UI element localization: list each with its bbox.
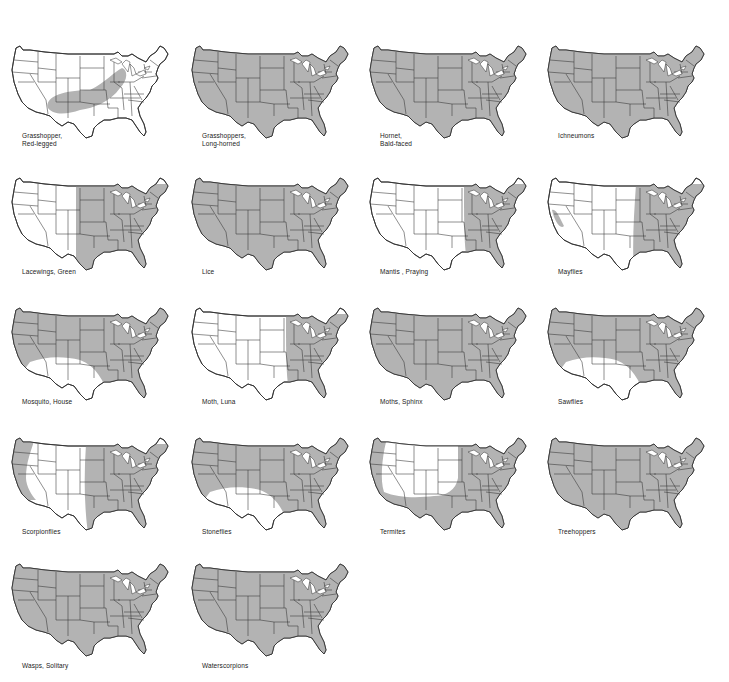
range-shading xyxy=(190,42,352,142)
range-map-panel: Hornet,Bald-faced xyxy=(362,36,538,156)
species-label: Hornet,Bald-faced xyxy=(380,132,412,148)
range-shading xyxy=(190,174,352,274)
species-label-line1: Grasshopper, xyxy=(22,132,62,140)
range-map-panel: Mosquito, House xyxy=(4,298,180,418)
us-map xyxy=(368,42,530,142)
species-label-line1: Sawflies xyxy=(558,398,583,406)
species-label-line1: Grasshoppers, xyxy=(202,132,246,140)
species-label-line1: Treehoppers xyxy=(558,528,596,536)
us-map xyxy=(368,174,530,274)
us-map xyxy=(10,174,172,274)
range-shading xyxy=(546,42,708,142)
species-label-line1: Termites xyxy=(380,528,405,536)
species-label-line1: Ichneumons xyxy=(558,132,594,140)
species-label: Ichneumons xyxy=(558,132,594,140)
us-map xyxy=(10,304,172,404)
us-map xyxy=(10,560,172,660)
range-shading xyxy=(546,434,708,534)
species-label-line1: Scorpionflies xyxy=(22,528,61,536)
range-map-panel: Stoneflies xyxy=(184,428,360,548)
range-map-panel: Lacewings, Green xyxy=(4,168,180,288)
range-shading xyxy=(286,314,352,404)
species-label: Grasshopper,Red-legged xyxy=(22,132,62,148)
species-label: Mayflies xyxy=(558,268,583,276)
range-map-panel: Moth, Luna xyxy=(184,298,360,418)
species-label: Lice xyxy=(202,268,214,276)
species-label-line1: Mosquito, House xyxy=(22,398,72,406)
species-label-line1: Moths, Sphinx xyxy=(380,398,423,406)
us-map xyxy=(546,42,708,142)
range-map-panel: Scorpionflies xyxy=(4,428,180,548)
us-map xyxy=(546,434,708,534)
range-map-panel: Wasps, Solitary xyxy=(4,554,180,674)
range-shading xyxy=(368,304,530,404)
range-shading xyxy=(464,184,530,274)
species-label-line1: Lacewings, Green xyxy=(22,268,76,276)
species-label: Mantis , Praying xyxy=(380,268,428,276)
species-label: Termites xyxy=(380,528,405,536)
range-shading xyxy=(190,560,352,660)
range-map-panel: Termites xyxy=(362,428,538,548)
range-map-panel: Sawflies xyxy=(540,298,716,418)
us-map xyxy=(10,434,172,534)
species-label: Scorpionflies xyxy=(22,528,61,536)
species-label-line1: Moth, Luna xyxy=(202,398,236,406)
us-map xyxy=(546,174,708,274)
species-label: Mosquito, House xyxy=(22,398,72,406)
range-map-panel: Lice xyxy=(184,168,360,288)
species-label-line1: Mantis , Praying xyxy=(380,268,428,276)
range-map-panel: Treehoppers xyxy=(540,428,716,548)
species-label-line1: Hornet, xyxy=(380,132,412,140)
us-map xyxy=(368,434,530,534)
range-map-panel: Grasshopper,Red-legged xyxy=(4,36,180,156)
species-label-line1: Wasps, Solitary xyxy=(22,662,68,670)
us-map xyxy=(190,174,352,274)
species-label: Moths, Sphinx xyxy=(380,398,423,406)
species-label-line1: Lice xyxy=(202,268,214,276)
range-shading xyxy=(10,560,172,660)
us-map xyxy=(190,560,352,660)
species-label: Wasps, Solitary xyxy=(22,662,68,670)
species-label-line1: Waterscorpions xyxy=(202,662,248,670)
range-shading xyxy=(368,42,530,142)
range-map-panel: Grasshoppers,Long-horned xyxy=(184,36,360,156)
species-label: Moth, Luna xyxy=(202,398,236,406)
us-map xyxy=(190,434,352,534)
range-map-panel: Ichneumons xyxy=(540,36,716,156)
us-map xyxy=(190,304,352,404)
species-label-line2: Red-legged xyxy=(22,140,62,148)
us-map xyxy=(368,304,530,404)
species-label-line1: Mayflies xyxy=(558,268,583,276)
species-label-line2: Long-horned xyxy=(202,140,246,148)
range-map-panel: Moths, Sphinx xyxy=(362,298,538,418)
species-label: Waterscorpions xyxy=(202,662,248,670)
species-label-line1: Stoneflies xyxy=(202,528,232,536)
species-label: Stoneflies xyxy=(202,528,232,536)
species-label: Lacewings, Green xyxy=(22,268,76,276)
us-map xyxy=(10,42,172,142)
us-map xyxy=(190,42,352,142)
species-label: Treehoppers xyxy=(558,528,596,536)
species-label: Grasshoppers,Long-horned xyxy=(202,132,246,148)
us-map xyxy=(546,304,708,404)
species-label: Sawflies xyxy=(558,398,583,406)
species-label-line2: Bald-faced xyxy=(380,140,412,148)
range-map-panel: Waterscorpions xyxy=(184,554,360,674)
range-map-panel: Mayflies xyxy=(540,168,716,288)
range-map-grid: Grasshopper,Red-legged Grasshoppers,Long… xyxy=(0,0,729,682)
range-map-panel: Mantis , Praying xyxy=(362,168,538,288)
